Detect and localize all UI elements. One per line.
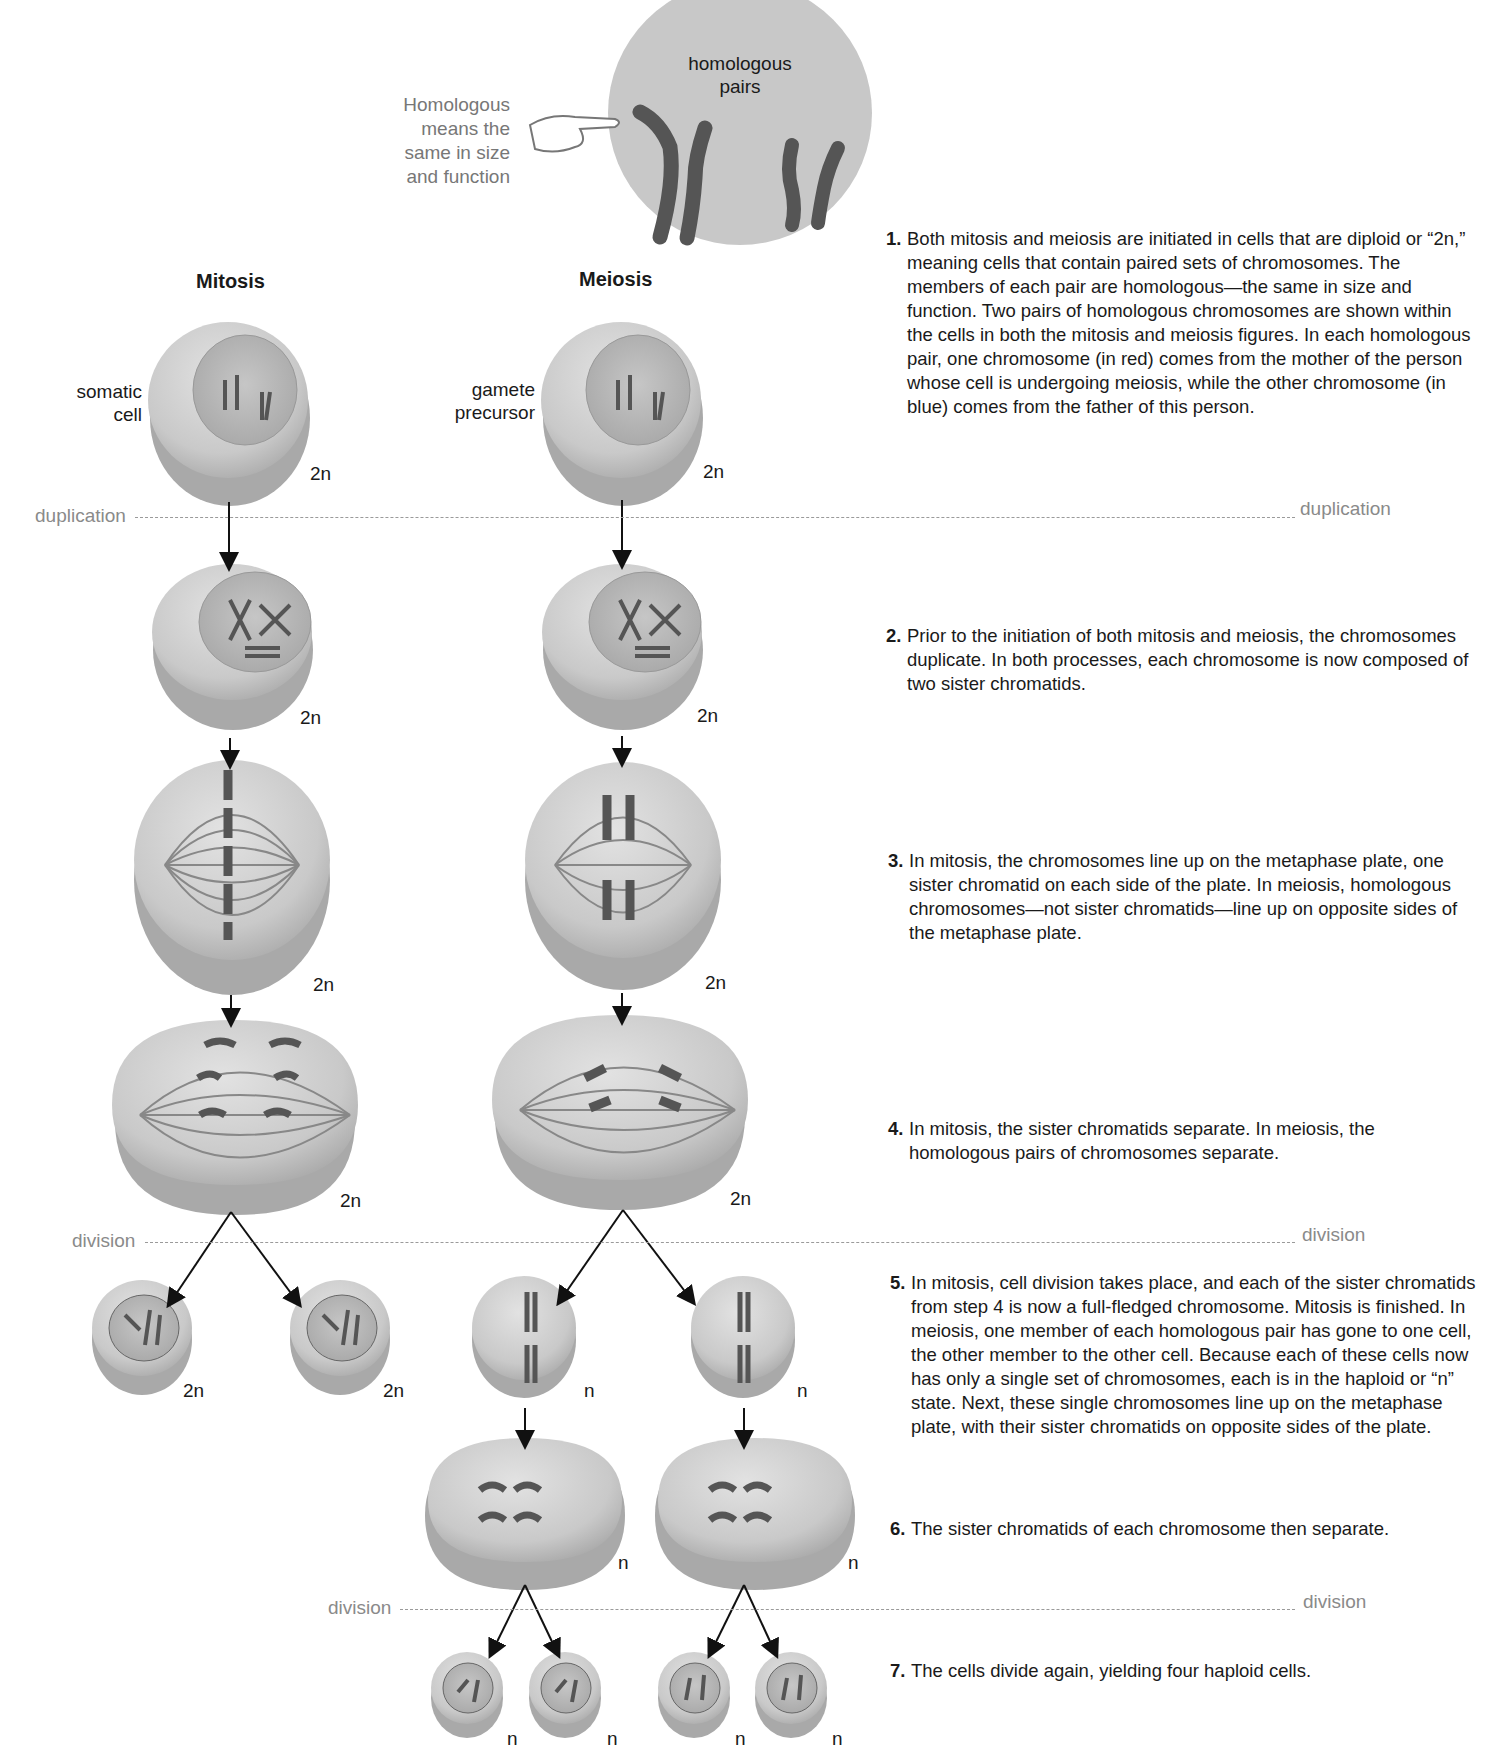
- mitosis-daughter-cell-1: [92, 1280, 192, 1395]
- ploidy-label: n: [848, 1552, 859, 1574]
- meiosis-column-title: Meiosis: [579, 268, 652, 291]
- mitosis-daughter-cell-2: [290, 1280, 390, 1395]
- step-3: 3. In mitosis, the chromosomes line up o…: [909, 849, 1479, 945]
- ploidy-label: 2n: [313, 974, 334, 996]
- step-6: 6. The sister chromatids of each chromos…: [911, 1517, 1492, 1541]
- homologous-pairs-circle: [608, 0, 872, 245]
- mitosis-cell-duplicated: [152, 564, 313, 730]
- duplication-divider: [135, 517, 1295, 518]
- step-1: 1. Both mitosis and meiosis are initiate…: [907, 227, 1477, 419]
- mitosis-cell-metaphase: [134, 760, 330, 995]
- step-5: 5. In mitosis, cell division takes place…: [911, 1271, 1481, 1439]
- division-divider-2: [400, 1609, 1295, 1610]
- mitosis-column-title: Mitosis: [196, 270, 265, 293]
- ploidy-label: 2n: [183, 1380, 204, 1402]
- duplication-label-right: duplication: [1300, 498, 1391, 520]
- meiosis-cell-metaphase: [525, 762, 721, 990]
- division-label-left-2: division: [328, 1597, 391, 1619]
- somatic-cell-label: somatic cell: [40, 380, 142, 426]
- meiosis-ii-cell-2: [655, 1438, 855, 1590]
- homologous-pairs-label: homologous pairs: [670, 52, 810, 98]
- pointing-hand-icon: [530, 116, 619, 152]
- haploid-cell-4: [755, 1652, 827, 1738]
- step-4: 4. In mitosis, the sister chromatids sep…: [909, 1117, 1479, 1165]
- ploidy-label: n: [797, 1380, 808, 1402]
- ploidy-label: 2n: [310, 463, 331, 485]
- ploidy-label: 2n: [300, 707, 321, 729]
- division-label-right: division: [1302, 1224, 1365, 1246]
- mitosis-cell-anaphase: [112, 1020, 358, 1215]
- meiosis-cell-anaphase: [492, 1015, 748, 1210]
- mitosis-cell-interphase: [148, 322, 310, 506]
- ploidy-label: 2n: [340, 1190, 361, 1212]
- ploidy-label: 2n: [705, 972, 726, 994]
- meiosis-daughter-cell-1: [472, 1276, 576, 1398]
- division-label-left: division: [72, 1230, 135, 1252]
- ploidy-label: 2n: [383, 1380, 404, 1402]
- ploidy-label: n: [607, 1728, 618, 1750]
- ploidy-label: n: [507, 1728, 518, 1750]
- ploidy-label: 2n: [730, 1188, 751, 1210]
- ploidy-label: 2n: [703, 461, 724, 483]
- step-2: 2. Prior to the initiation of both mitos…: [907, 624, 1477, 696]
- ploidy-label: n: [735, 1728, 746, 1750]
- meiosis-cell-duplicated: [542, 564, 703, 730]
- haploid-cell-2: [529, 1652, 601, 1738]
- step-7: 7. The cells divide again, yielding four…: [911, 1659, 1481, 1683]
- homologous-definition-note: Homologous means the same in size and fu…: [360, 93, 510, 189]
- ploidy-label: n: [832, 1728, 843, 1750]
- gamete-precursor-label: gamete precursor: [420, 378, 535, 424]
- division-label-right-2: division: [1303, 1591, 1366, 1613]
- ploidy-label: 2n: [697, 705, 718, 727]
- meiosis-daughter-cell-2: [691, 1276, 795, 1398]
- meiosis-ii-cell-1: [425, 1438, 625, 1590]
- haploid-cell-1: [431, 1652, 503, 1738]
- meiosis-cell-interphase: [541, 322, 703, 506]
- division-divider-1: [145, 1242, 1295, 1243]
- ploidy-label: n: [584, 1380, 595, 1402]
- ploidy-label: n: [618, 1552, 629, 1574]
- duplication-label-left: duplication: [35, 505, 126, 527]
- haploid-cell-3: [658, 1652, 730, 1738]
